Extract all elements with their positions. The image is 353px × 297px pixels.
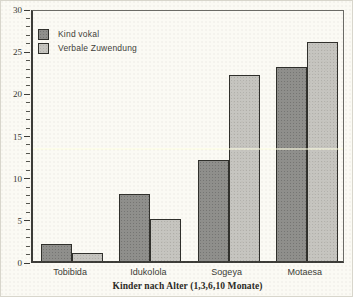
y-minor-tick-2 bbox=[26, 246, 30, 247]
y-tick-label-10: 10 bbox=[2, 174, 22, 184]
bar-kind-vokal-motaesa bbox=[276, 67, 307, 261]
y-major-tick-20 bbox=[24, 94, 30, 95]
legend-label-kind-vokal: Kind vokal bbox=[58, 29, 99, 39]
y-minor-tick-7 bbox=[26, 203, 30, 204]
y-minor-tick-27 bbox=[26, 35, 30, 36]
y-minor-tick-18 bbox=[26, 111, 30, 112]
y-tick-label-15: 15 bbox=[2, 132, 22, 142]
y-minor-tick-28 bbox=[26, 26, 30, 27]
bar-verbale-zuwendung-tobibida bbox=[72, 253, 103, 261]
x-category-label-sogeya: Sogeya bbox=[211, 267, 242, 277]
y-minor-tick-16 bbox=[26, 128, 30, 129]
y-minor-tick-22 bbox=[26, 77, 30, 78]
bar-kind-vokal-sogeya bbox=[198, 160, 229, 261]
legend: Kind vokal Verbale Zuwendung bbox=[38, 27, 137, 55]
y-major-tick-0 bbox=[24, 263, 30, 264]
legend-swatch-kind-vokal bbox=[38, 29, 49, 40]
y-tick-label-5: 5 bbox=[2, 216, 22, 226]
bar-kind-vokal-tobibida bbox=[41, 244, 72, 261]
y-major-tick-25 bbox=[24, 52, 30, 53]
y-minor-tick-29 bbox=[26, 18, 30, 19]
y-minor-tick-12 bbox=[26, 161, 30, 162]
bar-kind-vokal-idukolola bbox=[119, 194, 150, 261]
bar-verbale-zuwendung-motaesa bbox=[307, 42, 338, 261]
y-minor-tick-23 bbox=[26, 69, 30, 70]
y-tick-label-25: 25 bbox=[2, 47, 22, 57]
y-minor-tick-3 bbox=[26, 237, 30, 238]
y-minor-tick-4 bbox=[26, 229, 30, 230]
y-minor-tick-19 bbox=[26, 102, 30, 103]
legend-item-verbale-zuwendung: Verbale Zuwendung bbox=[38, 41, 137, 55]
bar-verbale-zuwendung-sogeya bbox=[229, 75, 260, 261]
y-major-tick-10 bbox=[24, 178, 30, 179]
legend-label-verbale-zuwendung: Verbale Zuwendung bbox=[58, 43, 137, 53]
x-category-label-idukolola: Idukolola bbox=[130, 267, 166, 277]
y-tick-label-20: 20 bbox=[2, 89, 22, 99]
x-axis-title: Kinder nach Alter (1,3,6,10 Monate) bbox=[31, 281, 344, 291]
y-minor-tick-26 bbox=[26, 43, 30, 44]
y-major-tick-15 bbox=[24, 136, 30, 137]
y-minor-tick-8 bbox=[26, 195, 30, 196]
bar-verbale-zuwendung-idukolola bbox=[150, 219, 181, 261]
legend-item-kind-vokal: Kind vokal bbox=[38, 27, 137, 41]
y-major-tick-30 bbox=[24, 10, 30, 11]
x-category-label-motaesa: Motaesa bbox=[288, 267, 323, 277]
y-minor-tick-13 bbox=[26, 153, 30, 154]
x-category-label-tobibida: Tobibida bbox=[53, 267, 87, 277]
y-tick-label-30: 30 bbox=[2, 5, 22, 15]
bar-chart-figure: 051015202530 Kind vokal Verbale Zuwendun… bbox=[0, 0, 353, 297]
y-minor-tick-14 bbox=[26, 144, 30, 145]
y-minor-tick-24 bbox=[26, 60, 30, 61]
y-minor-tick-1 bbox=[26, 254, 30, 255]
y-minor-tick-6 bbox=[26, 212, 30, 213]
y-minor-tick-21 bbox=[26, 85, 30, 86]
y-minor-tick-17 bbox=[26, 119, 30, 120]
y-tick-label-0: 0 bbox=[2, 258, 22, 268]
y-minor-tick-11 bbox=[26, 170, 30, 171]
y-minor-tick-9 bbox=[26, 187, 30, 188]
y-major-tick-5 bbox=[24, 220, 30, 221]
legend-swatch-verbale-zuwendung bbox=[38, 43, 49, 54]
